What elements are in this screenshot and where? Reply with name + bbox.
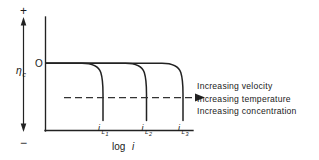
annotation-increasing-velocity: Increasing velocity bbox=[197, 81, 319, 93]
curve-label-il1: i L 1 bbox=[98, 123, 109, 137]
curve-il3 bbox=[46, 63, 183, 120]
x-axis-label-variable: i bbox=[132, 141, 135, 152]
curve-label-il1-index: 1 bbox=[106, 131, 109, 137]
figure-container: + − η c O i L 1 i L 2 i L 3 log i bbox=[0, 0, 319, 160]
axis-frame bbox=[45, 17, 193, 131]
trend-arrow bbox=[64, 94, 205, 102]
curve-label-il3-index: 3 bbox=[186, 131, 189, 137]
y-axis-label: η c bbox=[16, 64, 26, 78]
curve-il2 bbox=[46, 63, 147, 120]
annotation-increasing-temperature: Increasing temperature bbox=[197, 94, 319, 106]
curve-label-il2-index: 2 bbox=[148, 131, 152, 137]
arrow-head-up bbox=[21, 17, 27, 26]
y-axis-label-symbol: η bbox=[16, 64, 22, 76]
x-axis-label: log i bbox=[112, 141, 135, 152]
y-axis-negative-sign: − bbox=[20, 136, 27, 150]
x-axis-label-text: log bbox=[112, 141, 125, 152]
y-axis-positive-sign: + bbox=[20, 4, 27, 18]
curve-label-il2: i L 2 bbox=[142, 123, 153, 137]
annotation-list: Increasing velocity Increasing temperatu… bbox=[197, 81, 319, 118]
y-axis-label-subscript: c bbox=[22, 71, 26, 78]
curve-label-il3: i L 3 bbox=[178, 123, 189, 137]
curve-il1 bbox=[46, 63, 103, 120]
plot-svg: + − η c O i L 1 i L 2 i L 3 log i bbox=[0, 0, 319, 160]
annotation-increasing-concentration: Increasing concentration bbox=[197, 106, 319, 118]
origin-label: O bbox=[35, 58, 43, 69]
arrow-head-down bbox=[21, 124, 27, 133]
